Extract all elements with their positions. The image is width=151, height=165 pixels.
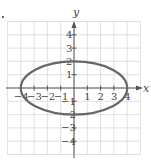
- y-tick-label: −1: [61, 96, 76, 107]
- y-tick-label: 4: [66, 29, 72, 40]
- x-axis-label: x: [143, 82, 150, 95]
- y-tick-label: −4: [61, 136, 76, 147]
- x-axis-arrow-icon: [136, 86, 143, 91]
- y-tick-label: 3: [66, 43, 72, 54]
- bullet-dot: [2, 16, 4, 18]
- y-tick-label: 1: [66, 69, 72, 80]
- y-tick-label: −3: [61, 122, 76, 133]
- x-tick-label: 1: [84, 91, 90, 102]
- y-axis-arrow-icon: [72, 21, 77, 28]
- ellipse-graph: −4−3−2−11234−4−3−2−11234 x y: [0, 0, 151, 165]
- x-tick-label: 2: [98, 91, 104, 102]
- y-axis-label: y: [72, 6, 80, 19]
- x-tick-label: 3: [111, 91, 117, 102]
